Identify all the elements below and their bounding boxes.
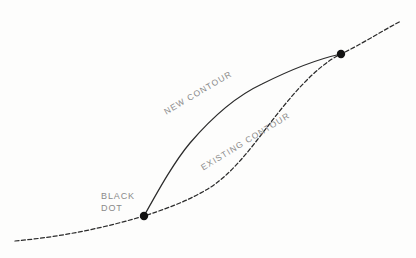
label-black-dot: BLACK DOT [101,191,135,214]
new-contour-curve [144,54,341,216]
upper-black-dot [337,50,345,58]
label-black-dot-line1: BLACK [101,191,135,203]
label-black-dot-line2: DOT [101,203,135,215]
lower-black-dot [140,212,148,220]
diagram-canvas-container: NEW CONTOUR EXISTING CONTOUR BLACK DOT [0,0,416,258]
contour-diagram-svg [0,0,416,258]
